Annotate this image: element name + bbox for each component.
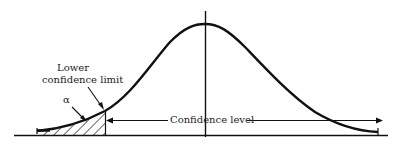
lower-limit-label-line1: Lower: [57, 62, 89, 74]
lower-limit-label-line2: confidence limit: [42, 74, 123, 86]
alpha-label: α: [63, 94, 70, 106]
confidence-level-label: Confidence level: [170, 114, 254, 126]
confidence-diagram: Lower confidence limit α Confidence leve…: [0, 0, 403, 148]
